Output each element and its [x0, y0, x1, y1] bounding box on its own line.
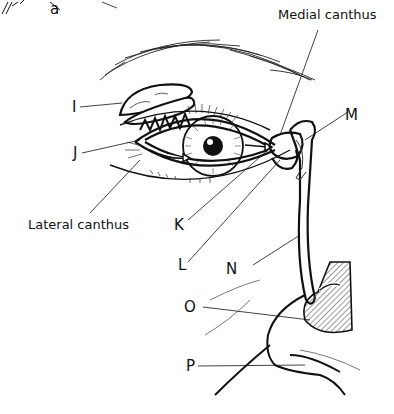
label-p: P [186, 359, 195, 374]
label-j: J [73, 146, 77, 161]
lower-lid-marks [150, 170, 210, 183]
label-o: O [184, 300, 196, 315]
nasolacrimal-duct [299, 200, 315, 304]
lacrimal-apparatus-diagram: a Medial canthus I J Lateral canthus K L… [0, 0, 394, 414]
label-a: a [50, 2, 59, 17]
label-i-lacrimal-gland: I [72, 100, 76, 115]
pupil [203, 136, 223, 156]
label-n: N [226, 262, 237, 277]
label-l: L [178, 258, 186, 273]
label-m: M [345, 108, 358, 123]
label-k: K [174, 218, 184, 233]
eyebrow [100, 40, 315, 80]
lacrimal-sac [270, 121, 315, 205]
eye-illustration [0, 0, 394, 414]
label-medial-canthus: Medial canthus [278, 8, 377, 21]
label-lateral-canthus: Lateral canthus [28, 218, 129, 231]
